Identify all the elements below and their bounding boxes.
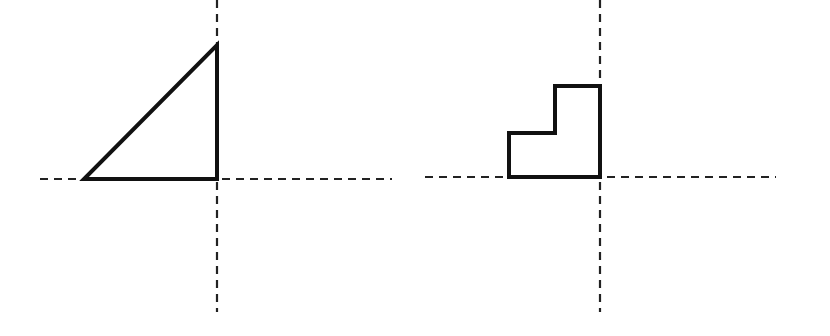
diagram-svg [0,0,830,336]
left-triangle-shape [84,45,217,179]
diagram-canvas [0,0,830,336]
right-staircase-shape [509,86,600,177]
left-figure [40,0,392,312]
right-figure [425,0,776,312]
